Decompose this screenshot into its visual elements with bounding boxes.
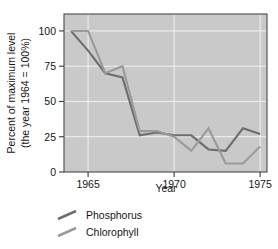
y-tick-label: 100 [38,25,56,37]
plot-area-background [64,14,267,172]
x-tick-label: 1965 [76,178,100,190]
line-chart-svg: 0255075100 196519701975 Year Percent of … [0,0,278,249]
x-tick-label: 1975 [248,178,272,190]
chart-legend: PhosphorusChlorophyll [58,209,142,238]
chart-figure: 0255075100 196519701975 Year Percent of … [0,0,278,249]
y-tick-label: 75 [44,60,56,72]
legend-label-chlorophyll: Chlorophyll [86,226,139,238]
y-tick-label: 25 [44,131,56,143]
y-axis-title-line1: Percent of maximum level [5,33,17,154]
legend-label-phosphorus: Phosphorus [86,209,142,221]
legend-swatch-phosphorus [58,211,76,219]
x-axis-title: Year [155,182,177,194]
legend-swatch-chlorophyll [58,228,76,236]
y-axis-title-line2: (the year 1964 = 100%) [19,38,31,148]
y-tick-label: 0 [50,166,56,178]
y-tick-label: 50 [44,95,56,107]
y-axis-tick-labels: 0255075100 [38,25,56,178]
